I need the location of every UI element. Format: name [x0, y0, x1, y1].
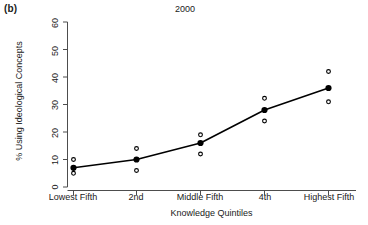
- lower-bound-markers: [72, 100, 331, 175]
- upper-bound-markers: [72, 70, 331, 162]
- x-axis: [68, 191, 357, 196]
- estimate-markers: [70, 85, 331, 171]
- plot-canvas: [0, 0, 368, 225]
- figure-panel: (b) 2000 % Using Ideological Concepts Kn…: [0, 0, 368, 225]
- y-axis: [63, 22, 68, 187]
